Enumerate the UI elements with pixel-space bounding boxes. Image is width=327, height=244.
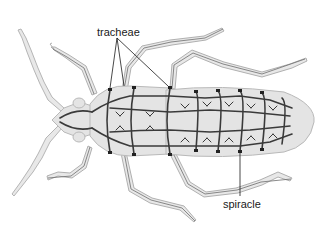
antennae bbox=[12, 29, 65, 196]
spiracle-label: spiracle bbox=[223, 199, 261, 210]
tracheae-leader-1 bbox=[110, 38, 117, 88]
insect-diagram bbox=[0, 0, 327, 244]
tracheae-leader-2 bbox=[117, 38, 124, 86]
tracheae-label: tracheae bbox=[97, 27, 140, 38]
